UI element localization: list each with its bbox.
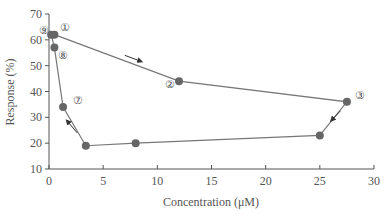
x-tick-label: 25	[314, 174, 326, 188]
x-tick-label: 5	[100, 174, 106, 188]
y-tick-label: 30	[30, 110, 42, 124]
point-label: ③	[355, 89, 365, 101]
data-point	[132, 139, 140, 147]
chart: 05101520253010203040506070 ①②③⑦⑧⑨ Concen…	[0, 0, 388, 214]
annotations: ①②③⑦⑧⑨	[39, 21, 365, 133]
plot-area	[47, 31, 351, 150]
data-point	[316, 131, 324, 139]
y-tick-label: 70	[30, 7, 42, 21]
data-point	[82, 142, 90, 150]
y-axis-label: Response (%)	[3, 59, 17, 126]
x-tick-label: 15	[206, 174, 218, 188]
point-label: ⑨	[39, 24, 49, 36]
data-point	[175, 77, 183, 85]
point-label: ⑧	[58, 49, 68, 61]
point-label: ②	[165, 78, 175, 90]
data-point	[59, 103, 67, 111]
x-tick-label: 10	[151, 174, 163, 188]
x-axis-label: Concentration (μM)	[163, 195, 259, 209]
y-tick-label: 10	[30, 162, 42, 176]
x-tick-label: 20	[260, 174, 272, 188]
y-tick-label: 50	[30, 59, 42, 73]
direction-arrow	[125, 55, 142, 61]
series-line	[51, 35, 347, 146]
y-tick-label: 20	[30, 136, 42, 150]
point-label: ⑦	[73, 94, 83, 106]
data-point	[343, 98, 351, 106]
x-tick-label: 30	[368, 174, 380, 188]
y-tick-label: 40	[30, 85, 42, 99]
x-tick-label: 0	[46, 174, 52, 188]
direction-arrow	[331, 111, 341, 121]
point-label: ①	[60, 21, 70, 33]
